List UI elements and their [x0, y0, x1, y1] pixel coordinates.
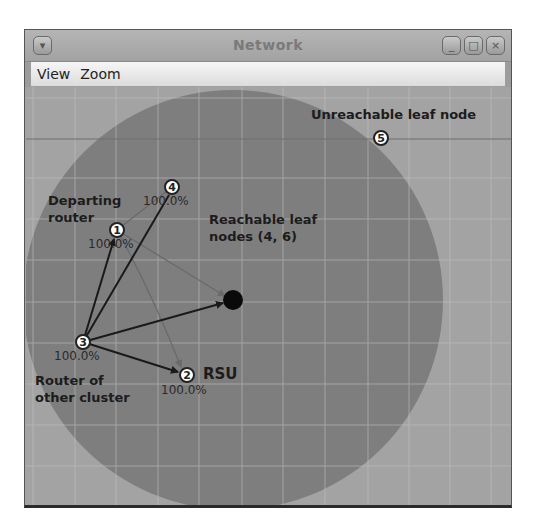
network-canvas[interactable]: 1 100.0% 4 100.0% 3 100.0% 2 100.0% 5 De…	[25, 87, 511, 505]
network-window: ▾ Network _ □ × View Zoom	[24, 29, 512, 508]
network-graph	[24, 29, 512, 508]
node-4[interactable]: 4	[164, 179, 180, 195]
center-node	[223, 290, 243, 310]
node-5[interactable]: 5	[373, 130, 389, 146]
reachable-leaf-label: Reachable leaf nodes (4, 6)	[209, 211, 317, 245]
node-2-percent: 100.0%	[161, 383, 207, 397]
node-1-percent: 100.0%	[88, 237, 134, 251]
node-4-percent: 100.0%	[143, 194, 189, 208]
router-other-cluster-label: Router of other cluster	[35, 372, 130, 406]
node-3[interactable]: 3	[75, 334, 91, 350]
departing-router-label: Departing router	[48, 192, 121, 226]
unreachable-leaf-label: Unreachable leaf node	[311, 106, 476, 123]
node-2[interactable]: 2	[179, 367, 195, 383]
rsu-label: RSU	[203, 366, 238, 383]
node-3-percent: 100.0%	[54, 349, 100, 363]
